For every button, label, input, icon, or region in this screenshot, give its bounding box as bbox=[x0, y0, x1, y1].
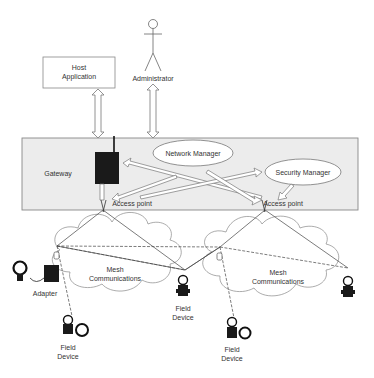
security-manager-label: Security Manager bbox=[276, 169, 332, 177]
adapter-icon bbox=[44, 265, 59, 282]
access-point-right-label: Access point bbox=[263, 200, 303, 208]
arrow-gateway-to-left-ap bbox=[100, 184, 104, 200]
field-device-1-label-line1: Field bbox=[60, 344, 75, 351]
adapter-label: Adapter bbox=[33, 290, 58, 298]
administrator-actor bbox=[144, 20, 162, 72]
actor-leg-left bbox=[145, 53, 153, 71]
field-device-2-icon bbox=[176, 276, 190, 297]
host-application: Host Application bbox=[43, 57, 115, 88]
field-device-1-label-line2: Device bbox=[57, 353, 79, 360]
network-manager-label: Network Manager bbox=[165, 150, 221, 158]
field-device-3-icon bbox=[227, 318, 251, 339]
field-device-3-label-line2: Device bbox=[221, 355, 243, 362]
mesh-node-mid-icon bbox=[217, 253, 222, 260]
actor-head-icon bbox=[149, 20, 158, 29]
host-application-label-line2: Application bbox=[62, 73, 96, 81]
actor-leg-right bbox=[153, 53, 161, 71]
access-point-left-label: Access point bbox=[112, 200, 152, 208]
mesh-node-left-icon bbox=[54, 252, 59, 259]
field-device-4-icon bbox=[341, 277, 355, 298]
host-application-label-line1: Host bbox=[72, 64, 86, 71]
field-device-1-icon bbox=[63, 316, 88, 337]
network-architecture-diagram: Host Application Administrator Gateway N… bbox=[0, 0, 374, 378]
mesh-left-label-line2: Communications bbox=[89, 275, 142, 282]
field-device-2-label-line1: Field bbox=[175, 305, 190, 312]
sensor-loop-icon bbox=[14, 262, 27, 275]
administrator-label: Administrator bbox=[132, 75, 174, 82]
gateway-label: Gateway bbox=[44, 170, 72, 178]
mesh-left-label-line1: Mesh bbox=[106, 266, 123, 273]
field-device-3-label-line1: Field bbox=[224, 346, 239, 353]
admin-gateway-arrow bbox=[147, 84, 159, 138]
field-device-2-label-line2: Device bbox=[172, 314, 194, 321]
adapter-device bbox=[14, 262, 60, 283]
mesh-right-label-line2: Communications bbox=[252, 278, 305, 285]
host-gateway-arrow bbox=[92, 89, 104, 138]
mesh-right-label-line1: Mesh bbox=[269, 269, 286, 276]
